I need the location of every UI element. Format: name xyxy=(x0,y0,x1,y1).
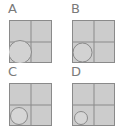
grid-c xyxy=(9,83,52,126)
circle-a xyxy=(9,41,32,64)
grid-b xyxy=(72,20,115,63)
circle-d xyxy=(75,112,88,125)
panel-label-b: B xyxy=(71,2,80,16)
grid-d xyxy=(72,83,115,126)
grid-diagram-c xyxy=(9,83,52,126)
circle-c xyxy=(11,108,28,125)
panel-c: C xyxy=(0,63,63,130)
grid-diagram-b xyxy=(72,20,115,63)
circle-b xyxy=(73,43,92,62)
grid-a xyxy=(9,20,52,63)
grid-diagram-a xyxy=(9,20,52,63)
panel-label-d: D xyxy=(71,65,81,79)
panel-a: A xyxy=(0,0,63,67)
panel-b: B xyxy=(63,0,126,67)
panel-label-a: A xyxy=(8,2,17,16)
grid-diagram-d xyxy=(72,83,115,126)
panel-d: D xyxy=(63,63,126,130)
panel-label-c: C xyxy=(8,65,17,79)
